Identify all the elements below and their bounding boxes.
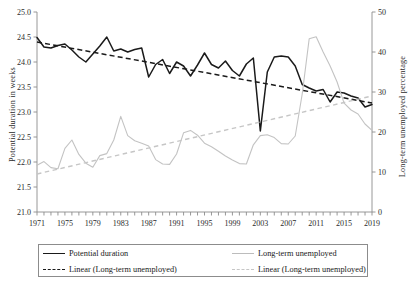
- y-axis-left-tick-label: 22.5: [17, 133, 31, 142]
- y-axis-left-tick-label: 25.0: [17, 8, 31, 17]
- x-axis-tick-label: 1987: [141, 219, 157, 228]
- x-axis-tick-label: 2003: [252, 219, 268, 228]
- plot-area: 21.021.522.022.523.023.524.024.525.00102…: [0, 0, 408, 284]
- legend-item-long-term-unemployed: Long-term unemployed: [214, 249, 369, 258]
- x-axis-tick-label: 1971: [29, 219, 45, 228]
- y-axis-right-tick-label: 50: [378, 8, 386, 17]
- y-axis-left-tick-label: 22.0: [17, 158, 31, 167]
- x-axis-tick-label: 1999: [224, 219, 240, 228]
- legend-label: Linear (Long-term unemployed): [69, 265, 177, 274]
- chart-legend: Potential duration Long-term unemployed …: [38, 244, 368, 277]
- legend-swatch-solid-gray-icon: [232, 253, 254, 254]
- legend-label: Linear (Long-term unemployed): [258, 265, 366, 274]
- legend-item-potential-duration: Potential duration: [39, 249, 214, 258]
- legend-label: Long-term unemployed: [258, 249, 337, 258]
- legend-swatch-dash-dark-icon: [43, 269, 65, 270]
- x-axis-tick-label: 1975: [57, 219, 73, 228]
- legend-swatch-dash-gray-icon: [232, 269, 254, 270]
- legend-swatch-solid-dark-icon: [43, 253, 65, 254]
- legend-item-linear-gray: Linear (Long-term unemployed): [214, 265, 369, 274]
- x-axis-tick-label: 1995: [197, 219, 213, 228]
- y-axis-left-tick-label: 24.5: [17, 33, 31, 42]
- x-axis-tick-label: 2007: [280, 219, 296, 228]
- trendline-3: [37, 42, 372, 103]
- legend-item-linear-dark: Linear (Long-term unemployed): [39, 265, 214, 274]
- y-axis-left-tick-label: 21.0: [17, 208, 31, 217]
- y-axis-right-tick-label: 40: [378, 48, 386, 57]
- y-axis-right-tick-label: 0: [378, 208, 382, 217]
- x-axis-tick-label: 2015: [336, 219, 352, 228]
- chart-figure: Potential duration in weeks Long-term un…: [0, 0, 408, 284]
- y-axis-right-tick-label: 30: [378, 88, 386, 97]
- x-axis-tick-label: 2011: [308, 219, 324, 228]
- y-axis-left-tick-label: 23.5: [17, 83, 31, 92]
- series-line-2: [37, 37, 372, 169]
- x-axis-tick-label: 2019: [364, 219, 380, 228]
- x-axis-tick-label: 1991: [169, 219, 185, 228]
- y-axis-left-tick-label: 21.5: [17, 183, 31, 192]
- y-axis-right-tick-label: 20: [378, 128, 386, 137]
- x-axis-tick-label: 1979: [85, 219, 101, 228]
- y-axis-right-tick-label: 10: [378, 168, 386, 177]
- y-axis-left-tick-label: 23.0: [17, 108, 31, 117]
- trendline-4: [37, 96, 372, 174]
- x-axis-tick-label: 1983: [113, 219, 129, 228]
- y-axis-left-tick-label: 24.0: [17, 58, 31, 67]
- legend-label: Potential duration: [69, 249, 128, 258]
